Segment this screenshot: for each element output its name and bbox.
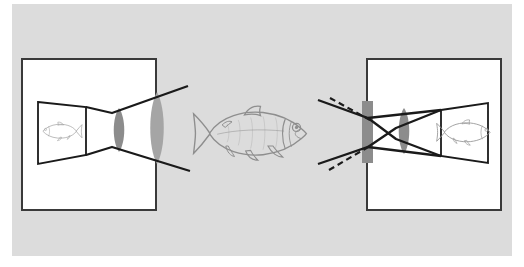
- aperture-slit-right: [362, 101, 373, 163]
- projection-screen-left: [38, 102, 86, 164]
- figure-root: [0, 0, 524, 267]
- optics-diagram-canvas: [0, 0, 524, 267]
